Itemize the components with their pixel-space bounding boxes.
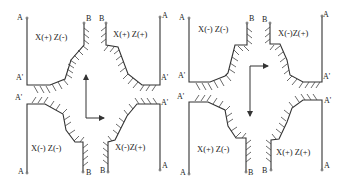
point-label-a: A bbox=[162, 161, 168, 170]
point-label-a: A bbox=[323, 10, 329, 19]
profile-bottom-left bbox=[189, 102, 246, 174]
point-label-a-prime: A' bbox=[15, 93, 23, 102]
direction-arrow-right bbox=[250, 66, 268, 116]
point-label-b: B bbox=[86, 168, 91, 177]
point-label-a: A bbox=[18, 167, 24, 176]
direction-arrow-left bbox=[86, 75, 104, 118]
quadrant-label: X(-) Z(-) bbox=[31, 143, 62, 153]
hatch-right bbox=[195, 27, 320, 162]
point-label-b: B bbox=[262, 15, 267, 24]
left-labels: X(+) Z(-) X(+) Z(+) X(-) Z(-) X(-)Z(+) A… bbox=[15, 11, 169, 177]
point-label-a-prime: A' bbox=[178, 71, 186, 80]
point-label-a-prime: A' bbox=[177, 92, 185, 101]
point-label-a: A bbox=[324, 161, 330, 170]
point-label-b: B bbox=[249, 14, 254, 23]
point-label-a-prime: A' bbox=[161, 73, 169, 82]
point-label-a: A bbox=[180, 168, 186, 177]
diagram-canvas: X(+) Z(-) X(+) Z(+) X(-) Z(-) X(-)Z(+) A… bbox=[0, 0, 344, 190]
quadrant-label: X(-) Z(-) bbox=[198, 24, 229, 34]
quadrant-label: X(-)Z(+) bbox=[278, 28, 308, 38]
point-label-b: B bbox=[100, 166, 105, 175]
point-label-a: A bbox=[17, 13, 23, 22]
quadrant-label: X(-)Z(+) bbox=[115, 142, 145, 152]
quadrant-label: X(+) Z(-) bbox=[35, 32, 68, 42]
point-label-a-prime: A' bbox=[161, 98, 169, 107]
point-label-a: A bbox=[162, 11, 168, 20]
point-label-b: B bbox=[248, 168, 253, 177]
point-label-a-prime: A' bbox=[16, 73, 24, 82]
profile-bottom-right bbox=[108, 104, 160, 172]
point-label-b: B bbox=[99, 14, 104, 23]
profile-bottom-left bbox=[27, 104, 83, 173]
quadrant-label: X(+) Z(+) bbox=[113, 29, 148, 39]
profile-top-right bbox=[106, 17, 160, 85]
profile-top-right bbox=[270, 16, 322, 82]
point-label-a-prime: A' bbox=[323, 72, 331, 81]
profile-top-left bbox=[27, 18, 84, 85]
point-label-a-prime: A' bbox=[324, 96, 332, 105]
point-label-b: B bbox=[86, 14, 91, 23]
quadrant-label: X(+) Z(-) bbox=[197, 144, 230, 154]
quadrant-label: X(+) Z(+) bbox=[276, 147, 311, 157]
point-label-a: A bbox=[179, 13, 185, 22]
right-labels: X(-) Z(-) X(-)Z(+) X(+) Z(-) X(+) Z(+) A… bbox=[177, 10, 332, 177]
profile-bottom-right bbox=[271, 100, 322, 170]
point-label-b: B bbox=[262, 166, 267, 175]
